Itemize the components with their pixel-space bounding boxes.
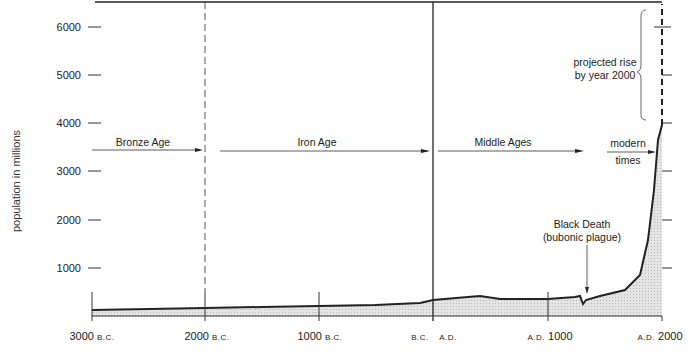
svg-text:Iron Age: Iron Age: [297, 136, 336, 148]
y-axis-tick-labels: 6000 5000 4000 3000 2000 1000: [57, 21, 81, 274]
brace-icon: [637, 10, 646, 120]
svg-text:A.D. 2000: A.D. 2000: [637, 330, 682, 342]
svg-text:1000 B.C.: 1000 B.C.: [297, 330, 342, 342]
y-axis-ticks: [88, 27, 101, 268]
svg-text:1000: 1000: [57, 262, 81, 274]
svg-text:A.D.: A.D.: [439, 333, 457, 342]
svg-text:times: times: [615, 154, 640, 166]
arrow-icon: [585, 287, 589, 294]
era-bronze-age: Bronze Age: [92, 136, 203, 152]
era-iron-age: Iron Age: [220, 136, 430, 153]
svg-text:3000: 3000: [57, 165, 81, 177]
population-chart: 6000 5000 4000 3000 2000 1000 3000 B.C. …: [0, 0, 689, 354]
svg-text:3000 B.C.: 3000 B.C.: [69, 330, 114, 342]
arrow-icon: [648, 150, 656, 154]
projected-rise-annotation: projected rise by year 2000: [573, 10, 646, 120]
arrow-icon: [195, 148, 203, 152]
svg-text:projected rise: projected rise: [573, 56, 636, 68]
svg-text:Bronze Age: Bronze Age: [116, 136, 170, 148]
svg-text:A.D. 1000: A.D. 1000: [527, 330, 572, 342]
svg-text:by year 2000: by year 2000: [575, 69, 636, 81]
black-death-annotation: Black Death (bubonic plague): [543, 218, 621, 294]
svg-text:5000: 5000: [57, 69, 81, 81]
era-middle-ages: Middle Ages: [438, 136, 584, 153]
era-modern-times: modern times: [607, 137, 656, 166]
svg-text:4000: 4000: [57, 117, 81, 129]
arrow-icon: [421, 149, 430, 153]
svg-text:modern: modern: [610, 137, 646, 149]
arrow-icon: [575, 149, 584, 153]
svg-text:2000 B.C.: 2000 B.C.: [184, 330, 229, 342]
svg-text:B.C.: B.C.: [411, 333, 429, 342]
x-axis-tick-labels: 3000 B.C. 2000 B.C. 1000 B.C. B.C. A.D. …: [69, 330, 682, 342]
svg-text:(bubonic plague): (bubonic plague): [543, 231, 621, 243]
svg-text:2000: 2000: [57, 214, 81, 226]
svg-text:Middle Ages: Middle Ages: [474, 136, 531, 148]
svg-text:6000: 6000: [57, 21, 81, 33]
svg-text:Black Death: Black Death: [554, 218, 611, 230]
